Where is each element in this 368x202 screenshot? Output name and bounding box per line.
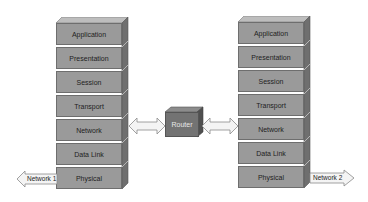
layer-label: Transport <box>256 102 286 109</box>
layer-application: Application <box>56 23 122 45</box>
layer-label: Application <box>254 30 288 37</box>
network-1-label: Network 1 <box>27 175 56 182</box>
layer-label: Session <box>77 79 102 86</box>
layer-label: Transport <box>74 103 104 110</box>
layer-transport: Transport <box>238 94 304 116</box>
layer-physical: Physical <box>56 167 122 189</box>
layer-transport: Transport <box>56 95 122 117</box>
layer-application: Application <box>238 22 304 44</box>
layer-label: Presentation <box>69 55 108 62</box>
layer-network: Network <box>56 119 122 141</box>
layer-session: Session <box>56 71 122 93</box>
layer-label: Application <box>72 31 106 38</box>
layer-session: Session <box>238 70 304 92</box>
layer-data-link: Data Link <box>238 142 304 164</box>
layer-label: Network <box>76 127 102 134</box>
left-osi-stack: Application Presentation Session Transpo… <box>56 17 128 189</box>
layer-label: Session <box>259 78 284 85</box>
router-label: Router <box>171 121 192 128</box>
right-osi-stack: Application Presentation Session Transpo… <box>238 16 310 188</box>
layer-label: Physical <box>258 174 284 181</box>
layer-label: Network <box>258 126 284 133</box>
layer-label: Physical <box>76 175 102 182</box>
layer-network: Network <box>238 118 304 140</box>
network-2-label: Network 2 <box>313 174 342 181</box>
router-box: Router <box>165 112 199 137</box>
layer-physical: Physical <box>238 166 304 188</box>
layer-presentation: Presentation <box>56 47 122 69</box>
right-double-arrow-icon <box>201 117 239 135</box>
layer-presentation: Presentation <box>238 46 304 68</box>
layer-data-link: Data Link <box>56 143 122 165</box>
left-double-arrow-icon <box>128 117 166 135</box>
layer-label: Presentation <box>251 54 290 61</box>
layer-label: Data Link <box>74 151 104 158</box>
layer-label: Data Link <box>256 150 286 157</box>
